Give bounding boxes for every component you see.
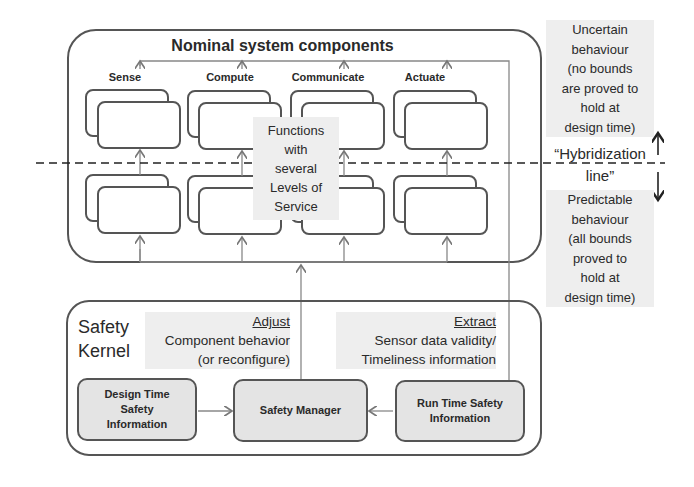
- column-label-communicate: Communicate: [288, 71, 368, 83]
- adjust-note: Adjust Component behavior (or reconfigur…: [145, 312, 290, 369]
- note-line: several: [253, 159, 339, 178]
- box-line: Run Time Safety: [417, 396, 503, 411]
- note-line: Component behavior: [145, 331, 290, 350]
- uncertain-behaviour-note: Uncertain behaviour (no bounds are prove…: [546, 20, 654, 137]
- hybridization-line-label: “Hybridization line”: [540, 143, 660, 187]
- box-line: Design Time: [104, 387, 169, 402]
- note-line: behaviour: [546, 210, 654, 230]
- column-label-actuate: Actuate: [395, 71, 455, 83]
- label-line: line”: [540, 165, 660, 187]
- extract-note: Extract Sensor data validity/ Timeliness…: [336, 312, 496, 369]
- extract-heading: Extract: [454, 314, 496, 329]
- note-line: (all bounds: [546, 229, 654, 249]
- note-line: Functions: [253, 121, 339, 140]
- note-line: hold at: [546, 98, 654, 118]
- column-label-sense: Sense: [105, 71, 145, 83]
- design-time-safety-info-box: Design Time Safety Information: [77, 378, 197, 441]
- note-line: Timeliness information: [336, 350, 496, 369]
- note-line: design time): [546, 288, 654, 308]
- safety-manager-box: Safety Manager: [233, 379, 368, 442]
- run-time-safety-info-box: Run Time Safety Information: [395, 380, 525, 442]
- note-line: with: [253, 140, 339, 159]
- box-line: Safety: [104, 402, 169, 417]
- note-line: Levels of: [253, 178, 339, 197]
- note-line: Service: [253, 197, 339, 216]
- safety-kernel-title: Safety Kernel: [78, 315, 130, 363]
- note-line: proved to: [546, 249, 654, 269]
- note-line: Uncertain: [546, 20, 654, 40]
- note-line: (no bounds: [546, 59, 654, 79]
- box-line: Information: [417, 411, 503, 426]
- note-line: behaviour: [546, 40, 654, 60]
- title-line: Safety: [78, 315, 130, 339]
- title-line: Kernel: [78, 339, 130, 363]
- note-line: design time): [546, 118, 654, 138]
- label-line: “Hybridization: [540, 143, 660, 165]
- note-line: Predictable: [546, 190, 654, 210]
- functions-note: Functions with several Levels of Service: [253, 117, 339, 220]
- predictable-behaviour-note: Predictable behaviour (all bounds proved…: [546, 190, 654, 307]
- column-label-compute: Compute: [200, 71, 260, 83]
- note-line: (or reconfigure): [145, 350, 290, 369]
- nominal-title: Nominal system components: [160, 37, 405, 55]
- note-line: Sensor data validity/: [336, 331, 496, 350]
- note-line: are proved to: [546, 79, 654, 99]
- note-line: hold at: [546, 268, 654, 288]
- box-line: Information: [104, 417, 169, 432]
- adjust-heading: Adjust: [252, 314, 290, 329]
